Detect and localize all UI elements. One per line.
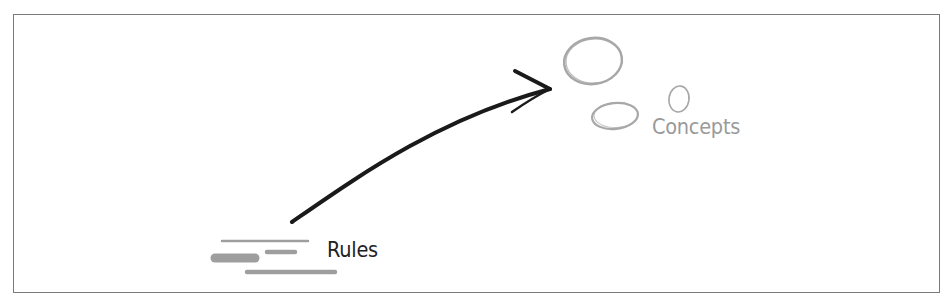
arrow-rules-to-concepts — [292, 71, 550, 222]
rules-label: Rules — [327, 239, 378, 261]
rules-lines-icon — [215, 241, 335, 272]
concepts-label: Concepts — [652, 116, 740, 138]
diagram-canvas — [0, 0, 950, 303]
